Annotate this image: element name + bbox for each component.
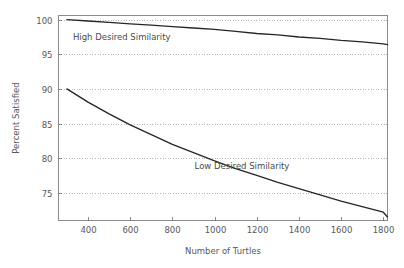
x-tick-label-1600: 1600 xyxy=(331,225,353,235)
y-tick-label-85: 85 xyxy=(42,120,53,130)
series-label-high-desired-similarity: High Desired Similarity xyxy=(73,32,171,42)
y-axis-title: Percent Satisfied xyxy=(11,82,21,153)
series-label-low-desired-similarity: Low Desired Similarity xyxy=(195,161,290,171)
x-tick-label-1800: 1800 xyxy=(373,225,395,235)
x-tick-label-400: 400 xyxy=(80,225,96,235)
line-chart: 40060080010001200140016001800 7580859095… xyxy=(0,0,404,268)
chart-figure: 40060080010001200140016001800 7580859095… xyxy=(0,0,404,268)
y-tick-label-80: 80 xyxy=(42,154,53,164)
y-tick-label-100: 100 xyxy=(36,16,52,26)
x-tick-label-800: 800 xyxy=(164,225,180,235)
y-tick-label-90: 90 xyxy=(42,85,53,95)
x-tick-label-1000: 1000 xyxy=(205,225,227,235)
x-axis-title: Number of Turtles xyxy=(185,246,261,256)
y-tick-label-95: 95 xyxy=(42,50,53,60)
x-tick-label-1400: 1400 xyxy=(289,225,311,235)
y-tick-label-75: 75 xyxy=(42,189,53,199)
x-tick-label-1200: 1200 xyxy=(247,225,269,235)
x-tick-label-600: 600 xyxy=(122,225,138,235)
